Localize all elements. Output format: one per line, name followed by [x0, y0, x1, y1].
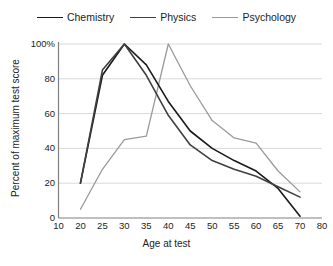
x-tick-label: 25 — [97, 221, 108, 231]
series-line-physics — [80, 44, 300, 197]
x-tick-label: 65 — [273, 221, 284, 231]
x-tick-label: 45 — [185, 221, 196, 231]
x-tick-label: 40 — [163, 221, 174, 231]
y-tick-label: 40 — [44, 143, 55, 153]
x-tick-label: 55 — [229, 221, 240, 231]
x-tick-label: 80 — [317, 221, 328, 231]
y-tick-label: 80 — [44, 74, 55, 84]
y-tick-label: 60 — [44, 109, 55, 119]
line-chart: Chemistry Physics Psychology 02040608010… — [0, 0, 333, 266]
x-tick-label: 35 — [141, 221, 152, 231]
x-tick-label: 20 — [75, 221, 86, 231]
x-tick-label: 10 — [53, 221, 64, 231]
x-axis-title: Age at test — [0, 238, 333, 250]
y-tick-label: 100% — [31, 39, 55, 49]
y-axis-title: Percent of maximum test score — [10, 48, 22, 208]
x-tick-label: 60 — [251, 221, 262, 231]
x-axis-ticks: 10202530354045505560657080 — [0, 221, 333, 235]
x-tick-label: 70 — [295, 221, 306, 231]
y-tick-label: 20 — [44, 178, 55, 188]
series-line-chemistry — [80, 44, 300, 216]
series-line-psychology — [80, 44, 300, 209]
x-tick-label: 50 — [207, 221, 218, 231]
x-tick-label: 30 — [119, 221, 130, 231]
